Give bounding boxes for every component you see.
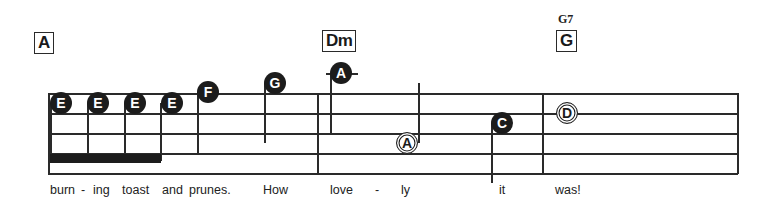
- note-stem: [50, 103, 52, 161]
- note-g: G: [264, 72, 286, 94]
- note-a-open: A: [396, 132, 418, 154]
- lyric-syllable: it: [499, 183, 505, 197]
- lyric-hyphen: -: [375, 183, 379, 197]
- lyric-syllable: prunes.: [189, 183, 231, 197]
- note-f: F: [197, 81, 219, 103]
- note-stem: [330, 73, 332, 133]
- lyric-syllable: How: [263, 183, 288, 197]
- staff-line-2: [48, 113, 738, 115]
- note-d-open: D: [556, 102, 578, 124]
- note-stem: [124, 103, 126, 161]
- lyric-syllable: was!: [555, 183, 581, 197]
- chord-box-g: G: [556, 30, 577, 52]
- lyric-syllable: burn: [50, 183, 75, 197]
- note-stem: [87, 103, 89, 161]
- lyric-syllable: ing: [93, 183, 110, 197]
- note-a-high: A: [330, 62, 352, 84]
- lyric-syllable: and: [162, 183, 183, 197]
- note-stem: [160, 103, 162, 161]
- note-stem: [264, 83, 266, 143]
- barline-end: [737, 93, 739, 174]
- lyric-syllable: ly: [401, 183, 410, 197]
- lyric-syllable: love: [330, 183, 353, 197]
- note-e: E: [124, 92, 146, 114]
- note-e: E: [50, 92, 72, 114]
- barline-1: [317, 93, 319, 174]
- chord-box-a: A: [34, 32, 54, 54]
- chord-box-dm: Dm: [322, 30, 356, 52]
- note-stem: [418, 83, 420, 143]
- note-stem: [197, 92, 199, 153]
- note-stem: [491, 123, 493, 183]
- barline-2: [542, 93, 544, 174]
- staff-line-3: [48, 133, 738, 135]
- staff-line-1: [48, 93, 738, 95]
- note-c: C: [491, 112, 513, 134]
- chord-alternate-g7: G7: [558, 12, 573, 27]
- staff-line-5: [48, 173, 738, 175]
- lyric-hyphen: -: [81, 183, 85, 197]
- note-beam: [50, 154, 161, 163]
- lyric-syllable: toast: [122, 183, 149, 197]
- note-e: E: [87, 92, 109, 114]
- note-e: E: [161, 92, 183, 114]
